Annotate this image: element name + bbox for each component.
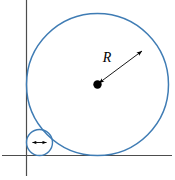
center-dot <box>93 80 101 88</box>
circle-tangent-diagram: R <box>0 0 175 180</box>
radius-label: R <box>102 50 112 65</box>
figure-container: R <box>0 0 175 180</box>
